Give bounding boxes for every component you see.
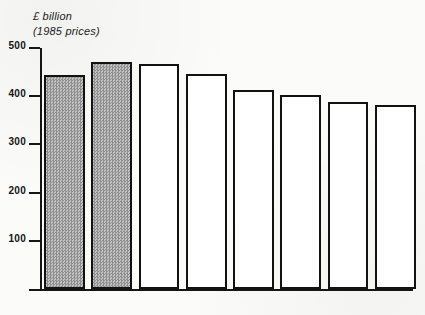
y-axis-tick: 300: [29, 143, 40, 145]
y-axis-tick-label: 100: [8, 233, 26, 244]
y-axis-tick-label: 200: [8, 185, 26, 196]
bar-1975: 1975: [44, 75, 85, 289]
chart-title: £ billion: [33, 9, 100, 24]
y-axis-tick-label: 400: [8, 88, 26, 99]
bar-1982: 1982: [233, 90, 274, 289]
bar-1980: 1980: [139, 64, 180, 289]
bar-chart: £ billion (1985 prices) 100200300400500 …: [0, 0, 425, 315]
plot-area: 100200300400500 197519791980198119821983…: [40, 40, 420, 290]
x-axis-line: [29, 289, 413, 291]
y-axis-tick: 200: [29, 192, 40, 194]
chart-subtitle: (1985 prices): [33, 24, 100, 39]
bar-1983: 1983: [280, 95, 321, 289]
y-axis-tick: 100: [29, 240, 40, 242]
bar-1984: 1984: [328, 102, 369, 289]
y-axis-tick-label: 300: [8, 136, 26, 147]
bar-1985: 1985: [375, 105, 416, 289]
bar-series: 19751979198019811982198319841985: [42, 40, 420, 289]
chart-title-block: £ billion (1985 prices): [33, 9, 100, 39]
bar-1981: 1981: [186, 74, 227, 289]
bar-1979: 1979: [91, 62, 132, 289]
y-axis-tick: 500: [29, 47, 40, 49]
y-axis-tick: 400: [29, 95, 40, 97]
y-axis-tick-label: 500: [8, 40, 26, 51]
